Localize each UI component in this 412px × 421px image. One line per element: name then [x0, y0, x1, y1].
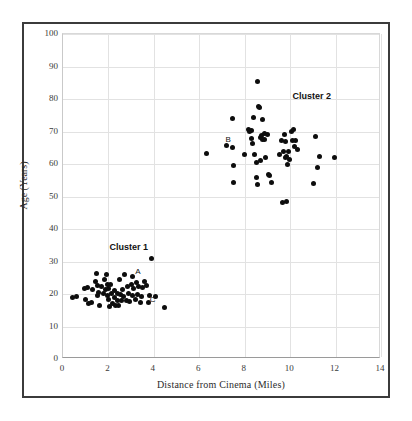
data-point [231, 180, 236, 185]
data-point [282, 132, 287, 137]
point-label-a: A [135, 268, 140, 276]
data-point [313, 134, 318, 139]
data-point [104, 272, 109, 277]
data-point [251, 115, 256, 120]
gridline-x-10 [290, 34, 291, 357]
data-point [108, 282, 113, 287]
data-point [255, 79, 260, 84]
data-point [255, 182, 260, 187]
x-axis-tick-labels: 02468101214 [0, 364, 412, 378]
data-point [230, 116, 235, 121]
gridline-y-80 [63, 99, 379, 100]
gridline-x-14 [381, 34, 382, 357]
data-point [260, 117, 265, 122]
data-point [287, 157, 292, 162]
figure: Cluster 1Cluster 2ABC 010203040506070809… [0, 0, 412, 421]
data-point [257, 105, 262, 110]
data-point [96, 290, 101, 295]
y-tick-90: 90 [28, 62, 58, 71]
data-point [122, 272, 127, 277]
cluster-label-cluster-1: Cluster 1 [110, 243, 149, 252]
plot-area: Cluster 1Cluster 2ABC [62, 33, 380, 358]
gridline-y-30 [63, 262, 379, 263]
data-point [162, 305, 167, 310]
data-point [267, 173, 272, 178]
gridline-x-4 [154, 34, 155, 357]
x-axis-title: Distance from Cinema (Miles) [62, 379, 380, 390]
data-point [139, 294, 144, 299]
y-axis-title: Age (Years) [18, 116, 29, 256]
data-point [286, 149, 291, 154]
data-point [117, 277, 122, 282]
data-point [285, 162, 290, 167]
data-point [116, 303, 121, 308]
gridline-y-50 [63, 197, 379, 198]
y-tick-80: 80 [28, 94, 58, 103]
y-tick-60: 60 [28, 159, 58, 168]
data-point [97, 303, 102, 308]
data-point [138, 300, 143, 305]
x-tick-10: 10 [274, 364, 304, 373]
data-point [120, 287, 125, 292]
data-point [283, 139, 288, 144]
data-point [204, 151, 209, 156]
data-point [89, 300, 94, 305]
data-point [284, 199, 289, 204]
gridline-y-60 [63, 164, 379, 165]
gridline-y-10 [63, 327, 379, 328]
data-point [311, 181, 316, 186]
data-point [293, 138, 298, 143]
y-tick-10: 10 [28, 322, 58, 331]
data-point [263, 155, 268, 160]
x-tick-14: 14 [365, 364, 395, 373]
data-point [269, 180, 274, 185]
data-point [94, 271, 99, 276]
x-tick-0: 0 [47, 364, 77, 373]
data-point [295, 147, 300, 152]
x-tick-2: 2 [92, 364, 122, 373]
x-tick-6: 6 [183, 364, 213, 373]
x-tick-12: 12 [320, 364, 350, 373]
gridline-x-8 [245, 34, 246, 357]
data-point [262, 137, 267, 142]
y-tick-70: 70 [28, 127, 58, 136]
data-point [102, 277, 107, 282]
x-tick-4: 4 [138, 364, 168, 373]
plot-wrapper: Cluster 1Cluster 2ABC 010203040506070809… [0, 0, 412, 421]
y-tick-100: 100 [28, 29, 58, 38]
data-point [74, 294, 79, 299]
data-point [133, 297, 138, 302]
data-point [127, 299, 132, 304]
data-point [90, 287, 95, 292]
data-point [144, 283, 149, 288]
data-point [242, 152, 247, 157]
data-point [252, 152, 257, 157]
y-tick-30: 30 [28, 257, 58, 266]
gridline-x-2 [108, 34, 109, 357]
cluster-label-cluster-2: Cluster 2 [292, 92, 331, 101]
gridline-y-70 [63, 132, 379, 133]
data-point [317, 154, 322, 159]
data-point [250, 141, 255, 146]
y-tick-20: 20 [28, 289, 58, 298]
y-tick-50: 50 [28, 192, 58, 201]
gridline-y-100 [63, 34, 379, 35]
data-point [315, 165, 320, 170]
data-point [332, 155, 337, 160]
gridline-y-90 [63, 67, 379, 68]
data-point [254, 175, 259, 180]
y-tick-0: 0 [28, 354, 58, 363]
data-point [249, 128, 254, 133]
data-point [258, 158, 263, 163]
x-tick-8: 8 [229, 364, 259, 373]
gridline-x-12 [336, 34, 337, 357]
gridline-x-6 [199, 34, 200, 357]
data-point [230, 145, 235, 150]
y-tick-40: 40 [28, 224, 58, 233]
gridline-y-40 [63, 229, 379, 230]
y-axis-tick-labels: 0102030405060708090100 [24, 0, 58, 421]
data-point [231, 163, 236, 168]
point-label-c: C [150, 296, 156, 304]
data-point [265, 132, 270, 137]
point-label-b: B [225, 136, 230, 144]
